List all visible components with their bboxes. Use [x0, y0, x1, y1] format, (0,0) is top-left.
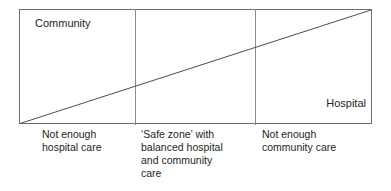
zone-caption-safe-zone: ‘Safe zone’ with balanced hospital and c…	[141, 128, 253, 180]
caption-line: care	[141, 167, 253, 180]
caption-line: and community	[141, 154, 253, 167]
zone-caption-not-enough-community-care: Not enough community care	[262, 128, 382, 154]
label-hospital: Hospital	[326, 97, 366, 110]
zone-divider-1	[135, 9, 136, 125]
caption-line: Not enough	[262, 128, 382, 141]
caption-line: hospital care	[42, 141, 137, 154]
caption-line: Not enough	[42, 128, 137, 141]
caption-line: ‘Safe zone’ with	[141, 128, 253, 141]
caption-line: balanced hospital	[141, 141, 253, 154]
zone-divider-2	[255, 9, 256, 125]
caption-line: community care	[262, 141, 382, 154]
balance-of-care-figure: Community Hospital Not enough hospital c…	[0, 0, 391, 191]
label-community: Community	[35, 17, 91, 30]
zone-caption-not-enough-hospital-care: Not enough hospital care	[42, 128, 137, 154]
